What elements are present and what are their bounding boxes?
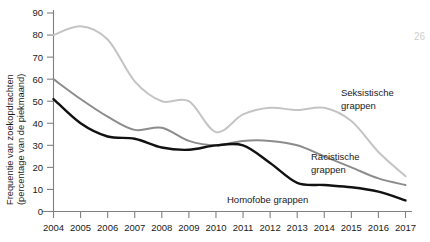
series-label-racistische-line2: grappen xyxy=(311,164,346,175)
x-tick-label: 2005 xyxy=(70,222,91,233)
series-label-seksistische-line1: Seksistische xyxy=(341,87,394,98)
y-axis-label-line1: Frequentie van zoekopdrachten xyxy=(5,74,15,205)
page-corner-number: 26 xyxy=(414,31,426,42)
y-tick-label: 20 xyxy=(32,162,43,173)
series-group xyxy=(54,26,406,200)
y-tick-label: 40 xyxy=(32,118,43,129)
series-label-racistische-line1: Racistische xyxy=(311,151,360,162)
x-tick-label: 2009 xyxy=(178,222,199,233)
x-tick-label: 2013 xyxy=(287,222,308,233)
x-tick-label: 2015 xyxy=(341,222,362,233)
y-tick-label: 50 xyxy=(32,96,43,107)
x-tick-label: 2004 xyxy=(43,222,64,233)
x-tick-label: 2011 xyxy=(233,222,253,233)
x-tick-group: 2004200520062007200820092010201120122013… xyxy=(43,212,416,234)
x-tick-label: 2010 xyxy=(205,222,226,233)
y-tick-label: 60 xyxy=(32,74,43,85)
x-tick-label: 2012 xyxy=(260,222,281,233)
x-tick-label: 2014 xyxy=(314,222,335,233)
x-tick-label: 2017 xyxy=(395,222,416,233)
series-label-seksistische-line2: grappen xyxy=(341,100,376,111)
x-tick-label: 2007 xyxy=(124,222,145,233)
x-tick-label: 2016 xyxy=(368,222,389,233)
y-tick-group: 0102030405060708090 xyxy=(32,7,53,217)
series-line-2 xyxy=(54,99,406,200)
y-axis-label: Frequentie van zoekopdrachten (percentag… xyxy=(5,74,26,205)
line-chart: Frequentie van zoekopdrachten (percentag… xyxy=(0,0,430,242)
x-tick-label: 2008 xyxy=(151,222,172,233)
series-label-homofobe: Homofobe grappen xyxy=(227,194,308,205)
series-annotation-seksistische: Seksistische grappen xyxy=(341,87,394,111)
y-tick-label: 80 xyxy=(32,29,43,40)
y-tick-label: 10 xyxy=(32,184,43,195)
series-annotation-racistische: Racistische grappen xyxy=(311,151,360,175)
y-tick-label: 0 xyxy=(38,206,43,217)
y-tick-label: 90 xyxy=(32,7,43,18)
y-tick-label: 70 xyxy=(32,52,43,63)
x-tick-label: 2006 xyxy=(97,222,118,233)
y-axis-label-line2: (percentage van de piekmaand) xyxy=(16,74,26,205)
y-tick-label: 30 xyxy=(32,140,43,151)
series-annotation-homofobe: Homofobe grappen xyxy=(227,194,308,205)
